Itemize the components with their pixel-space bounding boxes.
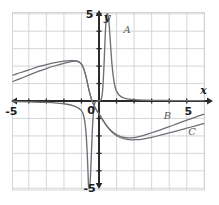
x-tick-label-negative-5: -5 [5, 105, 17, 118]
curve-annotation-b: B [163, 110, 171, 121]
curve-b [0, 61, 204, 138]
y-tick-label-negative-5: -5 [83, 182, 95, 195]
coordinate-plane-plot: -555-50xyABC [0, 0, 219, 205]
origin-label: 0 [87, 104, 95, 117]
curve-annotation-a: A [122, 24, 130, 35]
curve-annotation-c: C [188, 126, 196, 137]
y-tick-label-5: 5 [86, 8, 94, 21]
x-axis-label: x [199, 84, 207, 97]
graph-figure: -555-50xyABC [0, 0, 219, 205]
x-tick-label-5: 5 [184, 105, 192, 118]
axes [11, 10, 213, 189]
